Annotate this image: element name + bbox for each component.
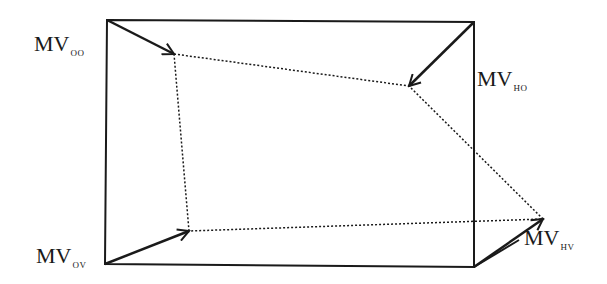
label-mv-ov-sub: OV	[72, 260, 86, 270]
label-mv-ov-main: MV	[36, 243, 71, 268]
label-mv-oo: MVOO	[34, 33, 84, 58]
motion-vector-diagram	[0, 0, 607, 284]
label-mv-ov: MVOV	[36, 245, 86, 270]
label-mv-hv-main: MV	[524, 225, 559, 250]
block-frame	[105, 20, 474, 267]
label-mv-ho-sub: HO	[513, 83, 527, 93]
label-mv-oo-main: MV	[34, 31, 69, 56]
label-mv-ho: MVHO	[477, 68, 527, 93]
vector-arrow-ov	[105, 231, 189, 264]
label-mv-hv: MVHV	[524, 227, 574, 252]
label-mv-oo-sub: OO	[70, 48, 84, 58]
vector-arrow-oo	[107, 20, 174, 54]
label-mv-hv-sub: HV	[560, 242, 574, 252]
vector-arrow-ho	[409, 22, 474, 86]
label-mv-ho-main: MV	[477, 66, 512, 91]
